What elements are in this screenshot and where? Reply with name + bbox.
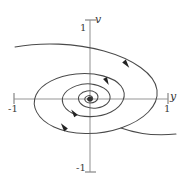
tick-label-y-right: 1 bbox=[164, 104, 170, 114]
tick-label-y-left: -1 bbox=[8, 104, 18, 114]
x-axis-label: y bbox=[170, 91, 176, 102]
y-axis-label: v bbox=[95, 14, 101, 25]
phase-portrait-plot bbox=[0, 0, 182, 190]
equilibrium-point bbox=[87, 96, 92, 101]
trajectory-group bbox=[15, 44, 176, 135]
tick-label-v-top: 1 bbox=[80, 23, 86, 33]
direction-arrowheads-group bbox=[59, 60, 131, 132]
trajectory-curve bbox=[15, 44, 157, 134]
tick-label-v-bottom: -1 bbox=[76, 163, 86, 173]
trajectory-outer-tail bbox=[121, 128, 176, 135]
phase-portrait-figure: v y 1 -1 -1 1 bbox=[0, 0, 182, 190]
